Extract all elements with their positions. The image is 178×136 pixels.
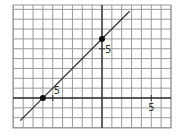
tick-label: 5 xyxy=(54,85,60,96)
data-point xyxy=(40,95,46,101)
graph-line xyxy=(20,11,129,120)
data-point xyxy=(99,36,105,42)
plotted-line xyxy=(20,11,129,120)
tick-label: 5 xyxy=(105,44,111,55)
coordinate-graph: 555 xyxy=(0,0,178,136)
tick-label: 5 xyxy=(148,102,154,113)
